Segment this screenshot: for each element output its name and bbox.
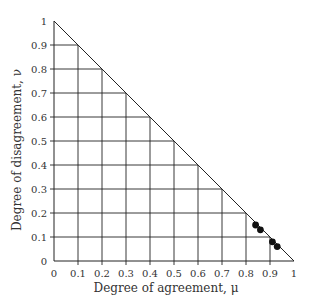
x-tick-label: 0.4 [142, 268, 158, 279]
x-tick-label: 0.6 [190, 268, 206, 279]
y-tick-label: 0.3 [31, 184, 47, 195]
y-tick-label: 0.4 [31, 160, 47, 171]
y-tick-label: 0.9 [31, 40, 47, 51]
x-tick-label: 0 [51, 268, 57, 279]
x-tick-label: 0.5 [166, 268, 182, 279]
y-tick-label: 0 [41, 256, 47, 267]
x-tick-label: 0.9 [262, 268, 278, 279]
x-tick-label: 0.3 [118, 268, 134, 279]
x-tick-label: 0.2 [94, 268, 110, 279]
y-axis-label: Degree of disagreement, ν [10, 69, 24, 231]
y-tick-label: 0.6 [31, 112, 47, 123]
triangle-grid [54, 45, 270, 261]
y-tick-label: 0.8 [31, 64, 47, 75]
y-tick-labels: 00.10.20.30.40.50.60.70.80.91 [31, 16, 47, 267]
data-point [274, 243, 281, 250]
x-tick-label: 0.7 [214, 268, 230, 279]
data-points [252, 222, 280, 250]
data-point [269, 238, 276, 245]
y-tick-label: 0.1 [31, 232, 47, 243]
y-tick-label: 1 [41, 16, 47, 27]
x-tick-label: 0.1 [70, 268, 86, 279]
y-tick-label: 0.2 [31, 208, 47, 219]
data-point [257, 226, 264, 233]
y-tick-label: 0.7 [31, 88, 47, 99]
x-axis-label: Degree of agreement, μ [94, 281, 239, 295]
data-point [252, 222, 259, 229]
x-tick-labels: 00.10.20.30.40.50.60.70.80.91 [51, 268, 297, 279]
x-tick-label: 1 [291, 268, 297, 279]
x-tick-label: 0.8 [238, 268, 254, 279]
y-tick-label: 0.5 [31, 136, 47, 147]
intuitionistic-fuzzy-triangle-chart: 00.10.20.30.40.50.60.70.80.91 00.10.20.3… [0, 0, 312, 307]
